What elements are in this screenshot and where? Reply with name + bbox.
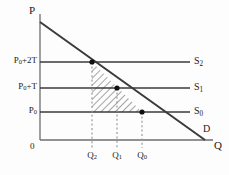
supply-demand-tax-diagram: P Q 0 P0+2T P0+T P0 Q2 Q1 Q0 S2 S1 S0 D xyxy=(0,0,229,175)
equilibrium-point-e2 xyxy=(89,59,94,64)
quantity-label-q1: Q1 xyxy=(107,151,127,161)
equilibrium-point-e1 xyxy=(114,85,119,90)
supply-label-s2-sub: 2 xyxy=(200,60,204,68)
price-label-p0-sub: 0 xyxy=(34,108,37,115)
supply-label-s0: S0 xyxy=(194,106,203,118)
quantity-label-q2-sub: 2 xyxy=(94,153,97,160)
equilibrium-point-e0 xyxy=(139,109,144,114)
supply-label-s2: S2 xyxy=(194,56,203,68)
supply-label-s0-sub: 0 xyxy=(200,110,204,118)
supply-label-s1: S1 xyxy=(194,82,203,94)
price-label-p0: P0 xyxy=(0,106,37,116)
price-label-p0-plus-2t: P0+2T xyxy=(0,56,37,66)
quantity-label-q2: Q2 xyxy=(82,151,102,161)
price-label-p0-plus-2t-suffix: +2T xyxy=(22,55,37,65)
demand-label: D xyxy=(203,124,210,134)
quantity-label-q0: Q0 xyxy=(132,151,152,161)
price-label-p0-plus-t: P0+T xyxy=(0,82,37,92)
y-axis-label: P xyxy=(29,5,35,16)
origin-label: 0 xyxy=(30,142,35,151)
quantity-label-q0-sub: 0 xyxy=(144,153,147,160)
quantity-label-q1-sub: 1 xyxy=(119,153,122,160)
supply-label-s1-sub: 1 xyxy=(200,86,204,94)
demand-curve xyxy=(40,22,205,140)
price-label-p0-plus-t-suffix: +T xyxy=(26,81,37,91)
x-axis-label: Q xyxy=(214,140,222,151)
